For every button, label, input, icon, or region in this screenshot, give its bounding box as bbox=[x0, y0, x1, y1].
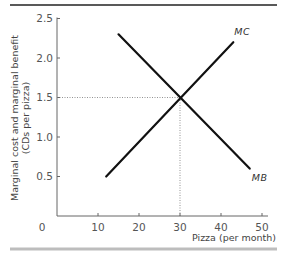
y-axis-label-line2: (CDs per pizza) bbox=[20, 35, 31, 201]
curves: MCMB bbox=[106, 26, 267, 182]
x-tick-label: 10 bbox=[91, 221, 104, 233]
y-axis-label-container: Marginal cost and marginal benefit (CDs … bbox=[0, 0, 40, 230]
chart-canvas: MCMB 0.51.01.52.02.501020304050 bbox=[0, 0, 282, 258]
x-tick-label: 20 bbox=[132, 221, 145, 233]
mc-curve bbox=[106, 42, 233, 176]
x-axis-label: Pizza (per month) bbox=[192, 232, 276, 243]
mc-curve-label: MC bbox=[234, 26, 250, 37]
y-axis-label: Marginal cost and marginal benefit (CDs … bbox=[9, 35, 31, 201]
mb-curve bbox=[119, 34, 250, 168]
equilibrium-guides bbox=[57, 98, 180, 217]
tick-labels: 0.51.01.52.02.501020304050 bbox=[36, 12, 268, 233]
mb-curve-label: MB bbox=[252, 172, 268, 183]
y-axis-label-line1: Marginal cost and marginal benefit bbox=[9, 35, 20, 201]
x-tick-label: 30 bbox=[173, 221, 186, 233]
